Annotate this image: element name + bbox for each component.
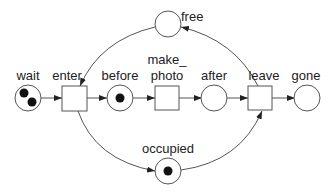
place-gone: gone (292, 68, 321, 111)
transition-label-enter: enter (52, 68, 82, 83)
transition-label-make-photo-2: photo (151, 68, 184, 83)
transition-make-photo: make_ photo (147, 52, 187, 110)
token (28, 98, 37, 107)
place-label-gone: gone (292, 68, 321, 83)
token (164, 167, 173, 176)
place-free: free (155, 9, 203, 37)
token (20, 89, 29, 98)
place-after: after (201, 68, 228, 111)
transition-leave: leave (248, 68, 280, 110)
place-label-after: after (201, 68, 228, 83)
place-label-before: before (102, 68, 139, 83)
place-before: before (102, 68, 139, 111)
place-wait: wait (15, 68, 41, 111)
petri-net-diagram: wait before after gone free occupied ent… (0, 0, 333, 192)
transition-label-leave: leave (248, 68, 279, 83)
place-label-wait: wait (15, 68, 40, 83)
token (116, 94, 125, 103)
transition-label-make-photo-1: make_ (147, 52, 187, 67)
place-label-free: free (181, 9, 203, 24)
place-occupied: occupied (142, 141, 194, 184)
place-label-occupied: occupied (142, 141, 194, 156)
transition-enter: enter (52, 68, 87, 111)
